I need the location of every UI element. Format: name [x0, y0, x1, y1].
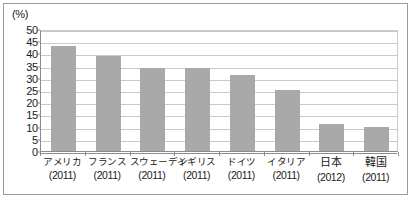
bar [275, 90, 300, 151]
x-category-label: ドイツ(2011) [219, 156, 264, 182]
y-tick-label: 30 [4, 73, 38, 84]
y-tick-label: 35 [4, 61, 38, 72]
x-category-label: スウェーデン(2011) [130, 156, 175, 182]
bar-series [41, 31, 397, 151]
x-category-name: 韓国 [353, 156, 398, 170]
y-axis-unit-label: (%) [12, 8, 28, 20]
bar [96, 56, 121, 151]
x-category-name: ドイツ [219, 156, 264, 168]
bar [140, 68, 165, 151]
x-category-year: (2011) [353, 171, 398, 184]
x-axis-category-labels: アメリカ(2011)フランス(2011)スウェーデン(2011)イギリス(201… [40, 156, 398, 194]
y-tick-label: 15 [4, 110, 38, 121]
y-tick-label: 50 [4, 25, 38, 36]
x-category-year: (2011) [40, 169, 85, 182]
bar [319, 124, 344, 151]
x-category-name: フランス [85, 156, 130, 168]
bar [364, 127, 389, 151]
x-category-year: (2011) [85, 169, 130, 182]
y-tick-label: 5 [4, 134, 38, 145]
plot-area [40, 30, 398, 152]
x-category-year: (2011) [130, 169, 175, 182]
bar [230, 75, 255, 151]
bar [185, 68, 210, 151]
y-tick-label: 0 [4, 147, 38, 158]
x-category-name: イタリア [264, 156, 309, 168]
x-category-label: フランス(2011) [85, 156, 130, 182]
x-category-name: 日本 [309, 156, 354, 170]
y-axis-tick-labels: 05101520253035404550 [0, 30, 38, 152]
x-category-label: アメリカ(2011) [40, 156, 85, 182]
x-category-label: 韓国(2011) [353, 156, 398, 184]
bar [51, 46, 76, 151]
x-category-label: イギリス(2011) [174, 156, 219, 182]
x-category-name: スウェーデン [130, 156, 175, 168]
bar-chart-figure: (%) 05101520253035404550 アメリカ(2011)フランス(… [0, 0, 411, 198]
y-tick-label: 40 [4, 49, 38, 60]
x-category-year: (2012) [309, 171, 354, 184]
x-category-name: イギリス [174, 156, 219, 168]
x-category-year: (2011) [174, 169, 219, 182]
y-tick-label: 25 [4, 86, 38, 97]
x-category-label: 日本(2012) [309, 156, 354, 184]
y-tick-label: 10 [4, 122, 38, 133]
y-tick-label: 20 [4, 98, 38, 109]
x-category-year: (2011) [219, 169, 264, 182]
y-tick-label: 45 [4, 37, 38, 48]
x-category-name: アメリカ [40, 156, 85, 168]
x-tick-mark [398, 152, 399, 156]
x-category-label: イタリア(2011) [264, 156, 309, 182]
x-category-year: (2011) [264, 169, 309, 182]
